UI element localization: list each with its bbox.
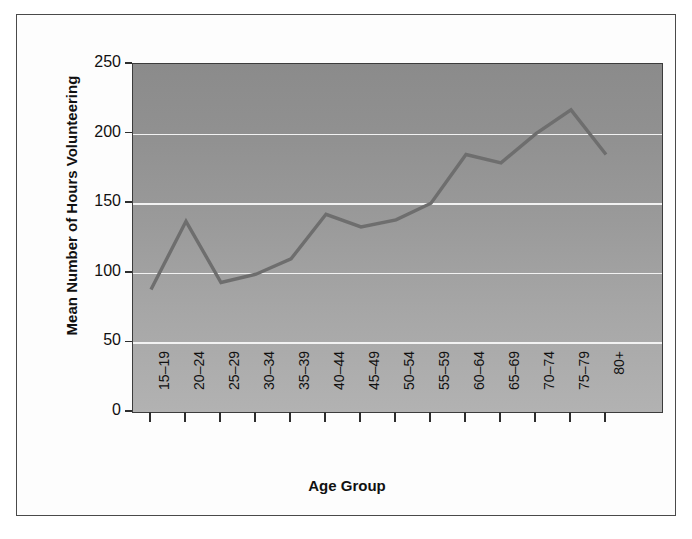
x-tick-label-2: 25–29 — [226, 351, 242, 421]
y-tick-label-50: 50 — [75, 332, 121, 348]
x-tick-mark-11 — [534, 412, 536, 422]
y-tick-mark-200 — [125, 132, 132, 134]
x-tick-mark-9 — [464, 412, 466, 422]
x-tick-mark-7 — [394, 412, 396, 422]
x-tick-label-10: 65–69 — [506, 351, 522, 421]
y-tick-label-200: 200 — [75, 124, 121, 140]
x-tick-mark-5 — [324, 412, 326, 422]
y-tick-label-250: 250 — [75, 54, 121, 70]
x-tick-label-9: 60–64 — [471, 351, 487, 421]
x-tick-label-7: 50–54 — [401, 351, 417, 421]
x-tick-label-5: 40–44 — [331, 351, 347, 421]
x-tick-label-6: 45–49 — [366, 351, 382, 421]
x-tick-label-13: 80+ — [611, 351, 627, 421]
y-tick-label-150: 150 — [75, 193, 121, 209]
y-tick-mark-0 — [125, 410, 132, 412]
x-tick-mark-1 — [184, 412, 186, 422]
x-tick-mark-13 — [604, 412, 606, 422]
x-tick-label-0: 15–19 — [156, 351, 172, 421]
x-tick-mark-12 — [569, 412, 571, 422]
chart-figure: Mean Number of Hours Volunteering 050100… — [16, 14, 676, 516]
x-tick-label-1: 20–24 — [191, 351, 207, 421]
x-tick-label-8: 55–59 — [436, 351, 452, 421]
y-tick-mark-100 — [125, 271, 132, 273]
x-tick-mark-10 — [499, 412, 501, 422]
x-tick-mark-6 — [359, 412, 361, 422]
x-tick-mark-0 — [149, 412, 151, 422]
x-tick-label-11: 70–74 — [541, 351, 557, 421]
x-tick-label-3: 30–34 — [261, 351, 277, 421]
x-tick-mark-4 — [289, 412, 291, 422]
x-axis-title: Age Group — [17, 477, 677, 494]
x-tick-label-4: 35–39 — [296, 351, 312, 421]
x-tick-mark-3 — [254, 412, 256, 422]
y-tick-mark-250 — [125, 62, 132, 64]
y-tick-mark-50 — [125, 341, 132, 343]
y-tick-label-0: 0 — [75, 402, 121, 418]
y-tick-mark-150 — [125, 201, 132, 203]
x-tick-label-12: 75–79 — [576, 351, 592, 421]
x-tick-mark-2 — [219, 412, 221, 422]
x-tick-mark-8 — [429, 412, 431, 422]
y-tick-label-100: 100 — [75, 263, 121, 279]
